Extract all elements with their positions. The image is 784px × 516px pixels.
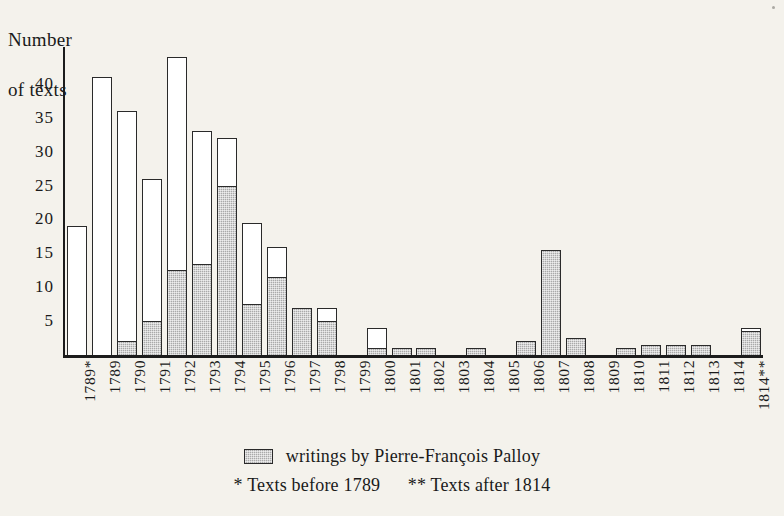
x-tick-label-1789: 1789 (106, 360, 124, 393)
bar-segment-palloy-writings (466, 348, 486, 355)
x-tick-label-1800: 1800 (381, 360, 399, 393)
bar-segment-palloy-writings (317, 321, 337, 355)
y-tick-label-15: 15 (35, 243, 54, 263)
y-tick-label-5: 5 (45, 311, 55, 331)
legend-notes-row: * Texts before 1789 ** Texts after 1814 (0, 475, 784, 496)
bar-1800 (367, 328, 387, 355)
bar-segment-palloy-writings (691, 345, 711, 355)
bar-1797 (292, 308, 312, 355)
bar-segment-palloy-writings (616, 348, 636, 355)
bar-segment-other-texts (242, 223, 262, 304)
bar-1813 (691, 345, 711, 355)
bar-1790 (117, 111, 137, 355)
bar-segment-other-texts (217, 138, 237, 185)
bar-1806 (516, 341, 536, 355)
y-tick-label-20: 20 (35, 209, 54, 229)
bar-segment-other-texts (367, 328, 387, 348)
bar-1814starstar (741, 328, 761, 355)
x-tick-label-1814: 1814 (730, 360, 748, 393)
bar-1811 (641, 345, 661, 355)
footnote-after-1814: ** Texts after 1814 (408, 475, 551, 495)
bar-1801 (392, 348, 412, 355)
x-tick-label-1809: 1809 (605, 360, 623, 393)
bar-segment-palloy-writings (192, 264, 212, 356)
bar-segment-palloy-writings (392, 348, 412, 355)
bar-1802 (416, 348, 436, 355)
bar-segment-other-texts (167, 57, 187, 271)
legend-series-label: writings by Pierre-François Palloy (286, 446, 540, 467)
bar-1804 (466, 348, 486, 355)
footnote-before-1789: * Texts before 1789 (234, 475, 381, 495)
bar-segment-other-texts (117, 111, 137, 341)
scan-speck (772, 6, 775, 9)
y-tick-label-40: 40 (35, 73, 54, 93)
x-tick-label-1803: 1803 (455, 360, 473, 393)
x-tick-label-1801: 1801 (406, 360, 424, 393)
x-tick-label-1794: 1794 (231, 360, 249, 393)
x-tick-label-1807: 1807 (555, 360, 573, 393)
bar-1808 (566, 338, 586, 355)
y-tick-label-25: 25 (35, 175, 54, 195)
bar-segment-other-texts (192, 131, 212, 263)
x-tick-label-1811: 1811 (655, 360, 673, 393)
bar-group (65, 50, 763, 355)
y-tick-label-10: 10 (35, 277, 54, 297)
bar-segment-palloy-writings (267, 277, 287, 355)
bar-segment-palloy-writings (741, 331, 761, 355)
bar-1791 (142, 179, 162, 355)
bar-1795 (242, 223, 262, 355)
bar-segment-palloy-writings (416, 348, 436, 355)
hatched-gray-swatch-icon (244, 449, 273, 464)
figure-canvas: Number of texts 510152025303540 1789*178… (0, 0, 784, 516)
x-tick-label-1789star: 1789* (81, 360, 99, 402)
bar-1812 (666, 345, 686, 355)
x-tick-label-group: 1789*17891790179117921793179417951796179… (63, 360, 763, 440)
bar-segment-palloy-writings (666, 345, 686, 355)
bar-1793 (192, 131, 212, 355)
bar-segment-other-texts (267, 247, 287, 278)
bar-1810 (616, 348, 636, 355)
bar-segment-other-texts (317, 308, 337, 322)
bar-segment-palloy-writings (516, 341, 536, 355)
x-tick-label-1790: 1790 (131, 360, 149, 393)
x-tick-label-1804: 1804 (480, 360, 498, 393)
bar-1796 (267, 247, 287, 355)
x-tick-label-1793: 1793 (206, 360, 224, 393)
x-tick-label-1796: 1796 (281, 360, 299, 393)
x-tick-label-1814starstar: 1814** (755, 360, 773, 410)
bar-segment-palloy-writings (541, 250, 561, 355)
y-tick-label-30: 30 (35, 141, 54, 161)
x-tick-label-1808: 1808 (580, 360, 598, 393)
bar-segment-palloy-writings (117, 341, 137, 355)
bar-1798 (317, 308, 337, 355)
bar-segment-palloy-writings (167, 270, 187, 355)
x-tick-label-1791: 1791 (156, 360, 174, 393)
bar-1792 (167, 57, 187, 355)
x-tick-label-1799: 1799 (356, 360, 374, 393)
x-tick-label-1812: 1812 (680, 360, 698, 393)
x-tick-label-1805: 1805 (505, 360, 523, 393)
bar-segment-other-texts (142, 179, 162, 321)
x-tick-label-1792: 1792 (181, 360, 199, 393)
legend: writings by Pierre-François Palloy * Tex… (0, 446, 784, 496)
plot-area: 510152025303540 (63, 50, 763, 356)
y-tick-label-35: 35 (35, 107, 54, 127)
bar-1807 (541, 250, 561, 355)
x-tick-label-1797: 1797 (306, 360, 324, 393)
legend-series-row: writings by Pierre-François Palloy (0, 446, 784, 467)
x-tick-label-1795: 1795 (256, 360, 274, 393)
bar-segment-other-texts (67, 226, 87, 355)
bar-segment-palloy-writings (566, 338, 586, 355)
bar-segment-palloy-writings (641, 345, 661, 355)
bar-1789star (67, 226, 87, 355)
x-tick-label-1813: 1813 (705, 360, 723, 393)
bar-segment-palloy-writings (242, 304, 262, 355)
bar-segment-palloy-writings (292, 308, 312, 355)
bar-segment-other-texts (92, 77, 112, 355)
x-axis-line (63, 355, 763, 358)
x-tick-label-1798: 1798 (331, 360, 349, 393)
bar-segment-palloy-writings (142, 321, 162, 355)
x-tick-label-1802: 1802 (430, 360, 448, 393)
bar-segment-palloy-writings (367, 348, 387, 355)
bar-segment-palloy-writings (217, 186, 237, 355)
